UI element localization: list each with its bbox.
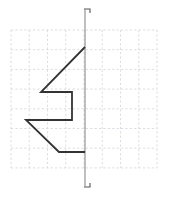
grid-plot-svg: [0, 0, 174, 197]
figure-root: [0, 0, 174, 197]
